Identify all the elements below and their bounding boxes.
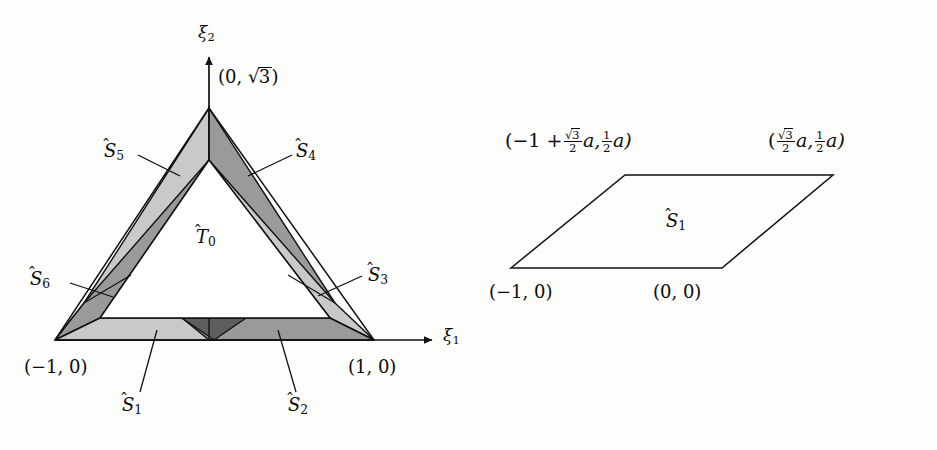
mathematical-figure: [0, 0, 937, 450]
detail-label-top-left: (−1 +√32a,12a): [505, 128, 632, 154]
y-axis-label: ξ2: [198, 24, 215, 44]
detail-label-bottom-left: (−1, 0): [489, 283, 552, 301]
region-label-T0: ̂T0: [196, 228, 216, 249]
vertex-label-bottom-left: (−1, 0): [24, 358, 87, 376]
leader-S4: [248, 155, 292, 176]
region-label-S6: ̂S6: [30, 270, 50, 291]
region-label-S3: ̂S3: [368, 266, 388, 287]
region-label-S1: ̂S1: [122, 396, 142, 417]
region-label-S4: ̂S4: [296, 142, 316, 163]
x-axis-label: ξ1: [443, 327, 460, 347]
strips-group: [55, 108, 374, 340]
detail-region-label-S1: ̂S1: [666, 212, 686, 233]
region-label-S5: ̂S5: [104, 142, 124, 163]
vertex-label-bottom-right: (1, 0): [348, 358, 396, 376]
detail-label-top-right: (√32a,12a): [768, 128, 845, 154]
region-label-S2: ̂S2: [288, 396, 308, 417]
detail-label-bottom-right: (0, 0): [653, 283, 701, 301]
vertex-label-apex: (0, √3): [218, 67, 279, 86]
